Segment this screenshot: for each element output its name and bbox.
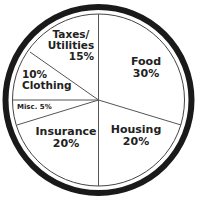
label-taxes-utilities: Taxes/ Utilities 15% (44, 29, 98, 62)
label-insurance: Insurance 20% (34, 126, 98, 149)
housing-pct: 20% (108, 136, 164, 148)
misc-text: Misc. 5% (17, 103, 52, 111)
label-housing: Housing 20% (108, 124, 164, 147)
housing-name: Housing (108, 124, 164, 136)
pie-chart (0, 0, 197, 201)
food-pct: 30% (120, 68, 172, 80)
insurance-name: Insurance (34, 126, 98, 138)
taxes-pct: 15% (44, 51, 98, 62)
label-misc: Misc. 5% (17, 104, 52, 111)
food-name: Food (120, 56, 172, 68)
insurance-pct: 20% (34, 138, 98, 150)
clothing-name: Clothing (22, 80, 72, 91)
label-food: Food 30% (120, 56, 172, 79)
label-clothing: 10% Clothing (22, 69, 72, 91)
